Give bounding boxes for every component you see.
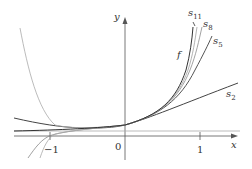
curve-s2 bbox=[14, 83, 238, 128]
tick-neg1-label: −1 bbox=[44, 144, 59, 155]
s8-label: s8 bbox=[203, 18, 213, 32]
tick-1-label: 1 bbox=[197, 144, 203, 155]
s11-pointer bbox=[193, 22, 195, 26]
curve-s11 bbox=[125, 27, 197, 125]
origin-label: 0 bbox=[115, 141, 121, 152]
curve-s-even-left bbox=[20, 28, 125, 128]
curve-f bbox=[14, 27, 193, 131]
s2-label: s2 bbox=[226, 88, 236, 102]
y-axis-label: y bbox=[113, 11, 120, 22]
s11-label: s11 bbox=[188, 7, 202, 21]
s5-label: s5 bbox=[213, 35, 223, 49]
x-axis-label: x bbox=[231, 139, 237, 150]
x-axis-arrow-icon bbox=[231, 134, 238, 139]
y-axis-arrow-icon bbox=[123, 17, 128, 24]
curve-s5 bbox=[125, 36, 212, 125]
f-label: f bbox=[176, 49, 183, 60]
chart-svg: y x 0 −1 1 f s11 s8 s5 s2 bbox=[0, 0, 252, 169]
curve-s8 bbox=[125, 27, 202, 125]
